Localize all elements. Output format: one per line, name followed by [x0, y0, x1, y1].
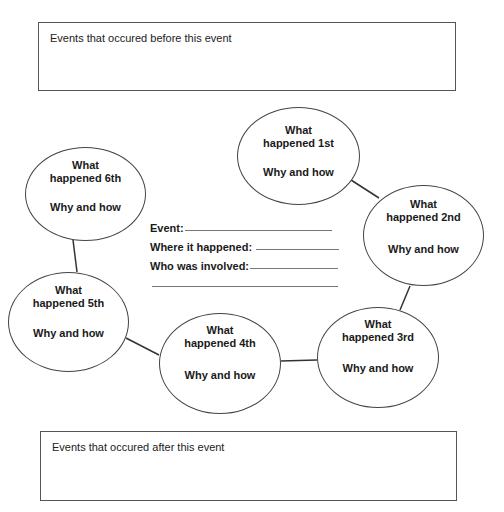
bubble-1st-why: Why and how — [238, 166, 359, 179]
what-line: What — [160, 324, 280, 337]
what-line: What — [26, 159, 145, 172]
where-field-row: Where it happened: — [150, 241, 339, 253]
what-line: What — [9, 284, 128, 297]
bubble-4th-what: What happened 4th — [160, 324, 280, 350]
where-input-line[interactable] — [256, 249, 339, 250]
events-before-box[interactable]: Events that occured before this event — [38, 22, 456, 91]
connector-4th-5th — [126, 338, 159, 355]
events-before-label: Events that occured before this event — [50, 32, 232, 44]
who-label: Who was involved: — [150, 260, 249, 272]
bubble-5th-what: What happened 5th — [9, 284, 128, 310]
connector-3rd-4th — [281, 360, 317, 361]
bubble-5th[interactable]: What happened 5th Why and how — [8, 272, 129, 372]
bubble-4th[interactable]: What happened 4th Why and how — [159, 313, 281, 414]
connector-5th-6th — [73, 240, 77, 272]
connector-2nd-3rd — [400, 286, 410, 310]
bubble-4th-why: Why and how — [160, 369, 280, 382]
event-input-line[interactable] — [185, 230, 332, 231]
happened-line: happened 2nd — [364, 211, 483, 224]
what-line: What — [238, 124, 359, 137]
event-label: Event: — [150, 222, 184, 234]
who-input-line[interactable] — [250, 268, 338, 269]
bubble-3rd[interactable]: What happened 3rd Why and how — [317, 307, 439, 408]
bubble-6th-what: What happened 6th — [26, 159, 145, 185]
what-line: What — [364, 198, 483, 211]
events-after-label: Events that occured after this event — [52, 441, 224, 453]
bubble-6th[interactable]: What happened 6th Why and how — [25, 147, 146, 241]
happened-line: happened 1st — [238, 137, 359, 150]
bubble-2nd-why: Why and how — [364, 243, 483, 256]
extra-input-line[interactable] — [152, 286, 338, 287]
bubble-2nd-what: What happened 2nd — [364, 198, 483, 224]
what-line: What — [318, 318, 438, 331]
happened-line: happened 5th — [9, 297, 128, 310]
where-label: Where it happened: — [150, 241, 252, 253]
bubble-2nd[interactable]: What happened 2nd Why and how — [363, 185, 484, 286]
bubble-1st[interactable]: What happened 1st Why and how — [237, 107, 360, 205]
events-after-box[interactable]: Events that occured after this event — [40, 431, 457, 501]
bubble-6th-why: Why and how — [26, 201, 145, 214]
happened-line: happened 4th — [160, 337, 280, 350]
event-field-row: Event: — [150, 222, 332, 234]
bubble-5th-why: Why and how — [9, 327, 128, 340]
bubble-1st-what: What happened 1st — [238, 124, 359, 150]
bubble-3rd-what: What happened 3rd — [318, 318, 438, 344]
happened-line: happened 3rd — [318, 331, 438, 344]
who-field-row: Who was involved: — [150, 260, 338, 272]
bubble-3rd-why: Why and how — [318, 362, 438, 375]
happened-line: happened 6th — [26, 172, 145, 185]
connector-1st-2nd — [351, 180, 379, 198]
